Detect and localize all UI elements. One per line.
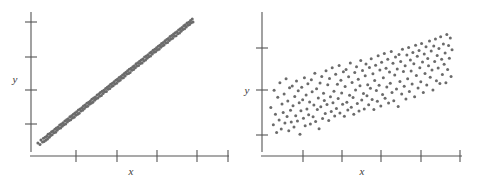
data-point [413,95,416,98]
data-point [315,87,318,90]
data-point [391,91,394,94]
data-point [286,115,289,118]
data-point [427,64,430,67]
data-point [430,68,433,71]
data-point [373,79,376,82]
data-point [282,111,285,114]
panel-right-scatterplot: y x [240,0,480,185]
data-point [322,92,325,95]
data-point [292,126,295,129]
data-point [406,77,409,80]
data-point [340,91,343,94]
data-point [291,84,294,87]
data-point [444,81,447,84]
data-point [397,53,400,56]
data-point [331,66,334,69]
data-point [417,86,420,89]
data-point [355,65,358,68]
data-point [377,54,380,57]
two-panel-scatterplot-figure: y x y x [0,0,480,185]
data-point [372,108,375,111]
data-point [410,69,413,72]
data-point [387,101,390,104]
data-point [338,64,341,67]
data-point [385,67,388,70]
data-point [376,100,379,103]
data-point [360,98,363,101]
data-point [287,129,290,132]
data-point [286,99,289,102]
data-point [349,61,352,64]
right-data-points [269,33,453,136]
data-point [408,90,411,93]
data-point [339,79,342,82]
data-point [384,97,387,100]
data-point [398,80,401,83]
data-point [297,89,300,92]
data-point [404,98,407,101]
data-point [394,55,397,58]
data-point [318,127,321,130]
data-point [345,101,348,104]
data-point [399,60,402,63]
data-point [298,133,301,136]
data-point [419,80,422,83]
data-point [319,81,322,84]
data-point [317,97,320,100]
data-point [338,112,341,115]
data-point [324,112,327,115]
data-point [341,103,344,106]
data-point [418,66,421,69]
data-point [346,109,349,112]
data-point [309,123,312,126]
data-point [432,45,435,48]
data-point [354,89,357,92]
data-point [363,108,366,111]
data-point [429,76,432,79]
data-point [425,45,428,48]
data-point [446,68,449,71]
data-point [395,88,398,91]
data-point [306,82,309,85]
data-point [401,48,404,51]
data-point [336,83,339,86]
data-point [351,81,354,84]
data-point [281,102,284,105]
data-point [38,143,41,146]
panel-left-scatterplot: y x [0,0,240,185]
data-point [364,63,367,66]
data-point [312,115,315,118]
data-point [295,79,298,82]
data-point [364,74,367,77]
data-point [325,69,328,72]
data-point [313,72,316,75]
data-point [298,101,301,104]
data-point [296,120,299,123]
data-point [272,123,275,126]
data-point [431,88,434,91]
data-point [352,96,355,99]
data-point [303,76,306,79]
data-point [448,57,451,60]
data-point [316,108,319,111]
data-point [443,63,446,66]
data-point [365,94,368,97]
data-point [416,55,419,58]
data-point [449,37,452,40]
data-point [273,89,276,92]
data-point [392,99,395,102]
data-point [320,75,323,78]
data-point [422,91,425,94]
data-point [310,78,313,81]
data-point [305,93,308,96]
right-ylabel: y [244,84,250,96]
data-point [390,50,393,53]
data-point [304,124,307,127]
data-point [426,57,429,60]
data-point [300,86,303,89]
data-point [353,71,356,74]
data-point [381,93,384,96]
data-point [302,117,305,120]
data-point [444,51,447,54]
data-point [331,101,334,104]
